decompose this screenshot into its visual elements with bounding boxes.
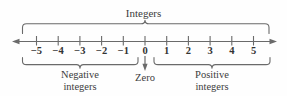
- figure-title: Integers: [0, 8, 287, 19]
- tick-label-4: 4: [229, 46, 234, 57]
- integers-number-line-figure: Integers −5 −4 −3 −2 −1 0 1 2 3 4 5 Nega…: [0, 0, 287, 96]
- tick-label-2: 2: [186, 46, 191, 57]
- caption-positive-line1: Positive: [195, 69, 229, 81]
- caption-negative-line1: Negative: [61, 69, 99, 81]
- tick-label--3: −3: [74, 46, 85, 57]
- tick-label--4: −4: [53, 46, 64, 57]
- caption-positive-line2: integers: [195, 81, 229, 93]
- bracket-negative-integers: [23, 58, 139, 69]
- tick-label-5: 5: [251, 46, 256, 57]
- tick-label--5: −5: [31, 46, 42, 57]
- tick-label--2: −2: [96, 46, 107, 57]
- caption-negative-integers: Negative integers: [61, 69, 99, 94]
- bracket-positive-integers: [154, 58, 270, 69]
- caption-zero-label: Zero: [135, 72, 155, 84]
- tick-label-0: 0: [142, 46, 147, 57]
- tick-label-3: 3: [207, 46, 212, 57]
- tick-label-1: 1: [164, 46, 169, 57]
- zero-pointer-arrow-down-icon: [142, 56, 147, 71]
- tick-label--1: −1: [118, 46, 129, 57]
- caption-zero: Zero: [135, 72, 155, 84]
- caption-positive-integers: Positive integers: [195, 69, 229, 94]
- caption-negative-line2: integers: [61, 81, 99, 93]
- arrow-right-icon: [270, 39, 278, 44]
- arrow-left-icon: [12, 39, 20, 44]
- bracket-integers: [23, 20, 270, 33]
